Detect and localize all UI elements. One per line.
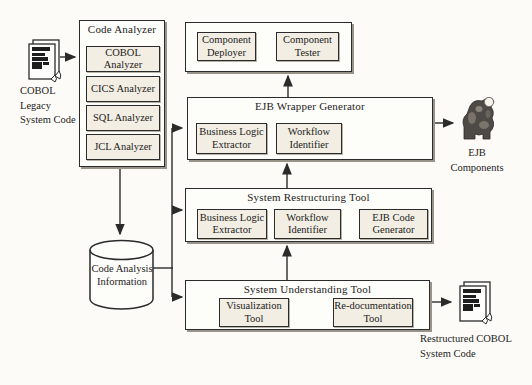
ejb-components-label: EJB Components xyxy=(444,146,510,175)
workflow-identifier-box: Workflow Identifier xyxy=(276,123,342,154)
workflow-identifier-box: Workflow Identifier xyxy=(274,209,341,239)
re-documentation-tool-box: Re-documentation Tool xyxy=(333,298,413,327)
component-tester-box: Component Tester xyxy=(276,32,339,61)
cobol-legacy-document-icon xyxy=(24,38,64,84)
sql-analyzer-box: SQL Analyzer xyxy=(86,105,160,131)
business-logic-extractor-box: Business Logic Extractor xyxy=(196,123,267,154)
architecture-diagram: COBOL Legacy System Code Code Analyzer C… xyxy=(0,0,532,385)
system-restructuring-tool-box: System Restructuring Tool Business Logic… xyxy=(185,188,432,242)
code-analysis-information-label: Code Analysis Information xyxy=(88,262,156,288)
restructured-cobol-code-label: Restructured COBOL System Code xyxy=(420,332,530,361)
ejb-wrapper-generator-title: EJB Wrapper Generator xyxy=(188,100,432,112)
ejb-wrapper-generator-box: EJB Wrapper Generator Business Logic Ext… xyxy=(187,97,433,160)
business-logic-extractor-box: Business Logic Extractor xyxy=(197,209,267,239)
visualization-tool-box: Visualization Tool xyxy=(219,298,289,327)
system-understanding-tool-title: System Understanding Tool xyxy=(186,283,429,295)
restructured-document-icon xyxy=(455,280,495,326)
jcl-analyzer-box: JCL Analyzer xyxy=(86,134,160,160)
system-restructuring-tool-title: System Restructuring Tool xyxy=(186,191,431,203)
system-understanding-tool-box: System Understanding Tool Visualization … xyxy=(185,280,430,330)
gorilla-icon xyxy=(457,96,497,142)
component-deployer-box: Component Deployer xyxy=(197,32,256,61)
ejb-code-generator-box: EJB Code Generator xyxy=(359,209,428,239)
code-analyzer-box: Code Analyzer COBOL Analyzer CICS Analyz… xyxy=(79,20,165,167)
cics-analyzer-box: CICS Analyzer xyxy=(86,76,160,102)
cobol-analyzer-box: COBOL Analyzer xyxy=(86,46,160,72)
code-analyzer-title: Code Analyzer xyxy=(80,23,164,35)
component-group-box: Component Deployer Component Tester xyxy=(185,22,352,72)
